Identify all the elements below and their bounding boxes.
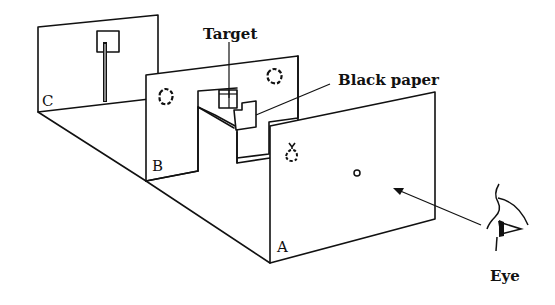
panel-c: C — [38, 15, 158, 112]
apparatus-diagram: C B A Target — [0, 0, 555, 305]
black-paper-label: Black paper — [338, 71, 440, 89]
floor-edge-c-to-b — [38, 112, 146, 181]
viewing-hole — [354, 170, 360, 176]
panel-c-label: C — [42, 92, 53, 110]
diagram-canvas: C B A Target — [0, 0, 555, 305]
target-square — [219, 90, 237, 108]
floor-edge-b-to-a — [146, 181, 270, 263]
target-label: Target — [203, 25, 257, 43]
eye-label: Eye — [490, 267, 520, 285]
panel-c-window — [97, 31, 119, 52]
panel-a-label: A — [276, 238, 288, 256]
eye-icon — [487, 184, 528, 251]
panel-b-label: B — [152, 157, 163, 175]
panel-c-face — [38, 15, 158, 112]
